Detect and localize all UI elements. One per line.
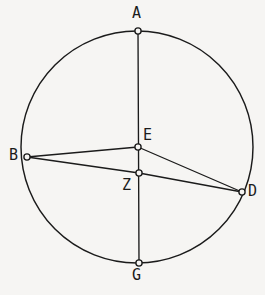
point-label-A: A	[132, 6, 141, 21]
vertex-marker-D	[239, 189, 245, 195]
segment-BE	[27, 147, 138, 157]
geometry-figure: A B E Z D G	[0, 0, 265, 295]
segment-BZ	[27, 157, 139, 173]
vertex-marker-Z	[136, 170, 142, 176]
vertex-marker-B	[24, 154, 30, 160]
point-label-B: B	[9, 148, 18, 163]
point-label-D: D	[248, 184, 257, 199]
geometry-canvas	[0, 0, 265, 295]
point-label-E: E	[143, 128, 152, 143]
segment-ZD	[139, 173, 242, 192]
vertex-marker-A	[135, 28, 141, 34]
segment-ED	[138, 147, 242, 192]
point-label-Z: Z	[122, 178, 131, 193]
vertex-marker-E	[135, 144, 141, 150]
point-label-G: G	[132, 268, 141, 283]
